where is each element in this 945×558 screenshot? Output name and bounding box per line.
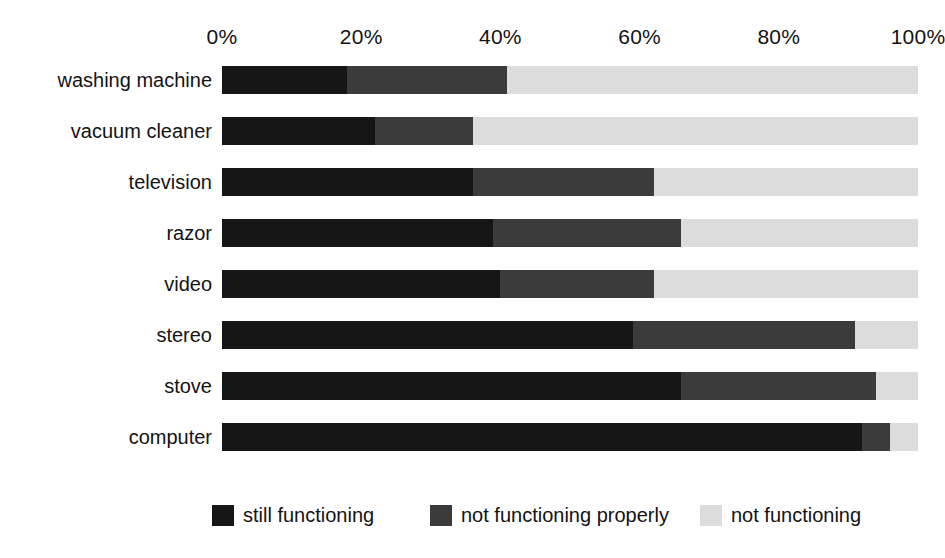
x-axis-tick-label: 40% (479, 24, 522, 50)
bar-row: stereo (0, 317, 942, 353)
bar-segment (681, 219, 918, 247)
bar-segment (654, 168, 918, 196)
bar-segment (222, 117, 375, 145)
bar-category-label: video (164, 272, 212, 296)
bar-segment (222, 66, 347, 94)
legend-swatch-icon (700, 505, 722, 526)
legend-entry[interactable]: not functioning properly (430, 500, 669, 530)
bar-track (222, 66, 918, 94)
legend-label: still functioning (243, 503, 374, 527)
bar-track (222, 219, 918, 247)
x-axis-tick-label: 100% (891, 24, 945, 50)
bar-row: television (0, 164, 942, 200)
bar-category-label: razor (166, 221, 212, 245)
bar-segment (633, 321, 856, 349)
bar-segment (222, 372, 681, 400)
x-axis: 0%20%40%60%80%100% (0, 24, 942, 58)
bar-category-label: television (129, 170, 212, 194)
bar-segment (222, 168, 473, 196)
x-axis-tick-label: 60% (618, 24, 661, 50)
bar-track (222, 117, 918, 145)
bar-segment (347, 66, 507, 94)
legend-entry[interactable]: still functioning (212, 500, 374, 530)
bar-row: vacuum cleaner (0, 113, 942, 149)
bar-segment (681, 372, 876, 400)
chart-legend: still functioningnot functioning properl… (0, 500, 942, 540)
bar-segment (654, 270, 918, 298)
x-axis-tick-label: 0% (207, 24, 238, 50)
bar-track (222, 321, 918, 349)
bar-row: razor (0, 215, 942, 251)
bar-track (222, 423, 918, 451)
bar-row: stove (0, 368, 942, 404)
bar-segment (493, 219, 681, 247)
bar-segment (500, 270, 653, 298)
legend-label: not functioning properly (461, 503, 669, 527)
bar-segment (507, 66, 918, 94)
bar-category-label: computer (129, 425, 212, 449)
bar-segment (876, 372, 918, 400)
bar-segment (855, 321, 918, 349)
bar-segment (473, 168, 654, 196)
bar-track (222, 168, 918, 196)
bar-segment (375, 117, 472, 145)
bar-segment (222, 219, 493, 247)
legend-label: not functioning (731, 503, 861, 527)
legend-entry[interactable]: not functioning (700, 500, 861, 530)
x-axis-tick-label: 20% (340, 24, 383, 50)
bar-row: washing machine (0, 62, 942, 98)
bar-row: video (0, 266, 942, 302)
bar-row: computer (0, 419, 942, 455)
bar-category-label: washing machine (57, 68, 212, 92)
bar-category-label: stereo (156, 323, 212, 347)
legend-swatch-icon (430, 505, 452, 526)
bar-track (222, 270, 918, 298)
legend-swatch-icon (212, 505, 234, 526)
bar-segment (222, 270, 500, 298)
bar-segment (473, 117, 918, 145)
bar-segment (890, 423, 918, 451)
x-axis-tick-label: 80% (757, 24, 800, 50)
bar-segment (222, 321, 633, 349)
bar-track (222, 372, 918, 400)
bar-segment (862, 423, 890, 451)
plot-area: washing machinevacuum cleanertelevisionr… (0, 62, 942, 482)
bar-segment (222, 423, 862, 451)
bar-category-label: stove (164, 374, 212, 398)
bar-category-label: vacuum cleaner (71, 119, 212, 143)
